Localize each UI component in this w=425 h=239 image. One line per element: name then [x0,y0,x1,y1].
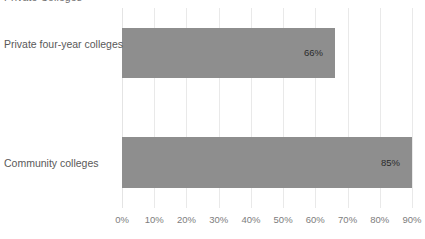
xtick-label-50: 50% [274,214,293,225]
bar-value-community-colleges: 85% [381,157,400,168]
xtick-label-0: 0% [115,214,129,225]
bar-value-private-four-year-colleges: 66% [304,47,323,58]
xtick-label-90: 90% [402,214,421,225]
xtick-label-10: 10% [145,214,164,225]
category-label-community-colleges: Community colleges [4,157,99,169]
gridline-90 [412,8,413,208]
bar-private-four-year-colleges [122,28,335,78]
chart-screenshot: Private Colleges 66% 85% Private four-ye… [0,0,425,239]
xtick-label-70: 70% [338,214,357,225]
bar-community-colleges [122,137,412,188]
chart-title-clipped: Private Colleges [4,0,82,3]
xtick-label-30: 30% [209,214,228,225]
category-label-private-four-year-colleges: Private four-year colleges [4,38,123,50]
xtick-label-80: 80% [370,214,389,225]
plot-area: 66% 85% [122,8,412,208]
xtick-label-60: 60% [306,214,325,225]
xtick-label-40: 40% [241,214,260,225]
xtick-label-20: 20% [177,214,196,225]
